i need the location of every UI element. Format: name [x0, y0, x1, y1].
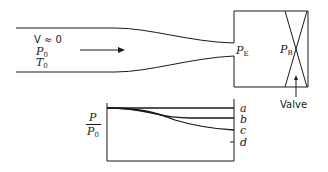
stagnation-temperature-label: T0 [36, 57, 48, 70]
exit-pressure-label: PE [236, 45, 249, 58]
flow-arrow-head [118, 47, 125, 53]
plot-ylabel-denominator: P0 [87, 126, 99, 139]
curve-b [107, 108, 234, 118]
curve-label-d: d [240, 137, 247, 148]
nozzle-diagram [0, 0, 328, 172]
plot-ylabel-numerator: P [89, 112, 96, 123]
valve-label: Valve [280, 100, 307, 110]
curve-c [107, 108, 234, 130]
back-pressure-label: PB [280, 44, 293, 57]
nozzle-lower-wall [16, 56, 234, 72]
inlet-velocity-label: V ≈ 0 [34, 35, 62, 45]
curve-label-c: c [240, 125, 246, 136]
valve-arrow-head [294, 75, 298, 80]
